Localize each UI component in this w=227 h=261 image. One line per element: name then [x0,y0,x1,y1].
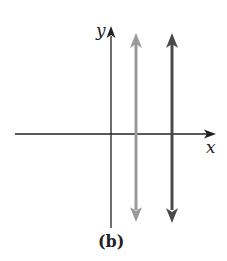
coordinate-plane [0,0,227,261]
x-axis [15,130,216,139]
vertical-line-dark [166,33,178,223]
y-axis [107,26,116,228]
y-axis-label: y [96,20,106,40]
figure-caption: (b) [98,232,124,251]
x-axis-label: x [206,137,216,157]
down-arrow-icon [166,208,178,223]
diagram-figure: y x (b) [0,0,227,261]
vertical-line-gray [130,33,142,222]
